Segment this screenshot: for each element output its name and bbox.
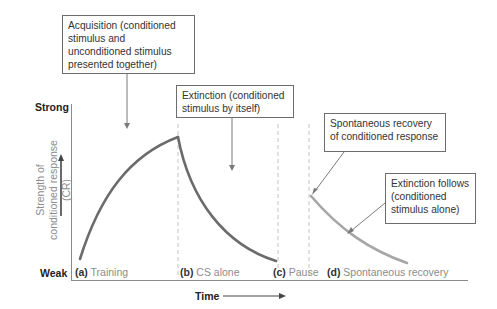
phase-key-c: (c) — [273, 266, 286, 278]
time-arrowhead-icon — [279, 293, 286, 299]
acquisition-curve — [80, 137, 178, 259]
extinction-follows-callout: Extinction follows (conditioned stimulus… — [385, 173, 476, 224]
phase-label-c: (c) Pause — [273, 266, 319, 278]
phase-text-c: Pause — [286, 266, 319, 278]
extinction-callout: Extinction (conditioned stimulus by itse… — [176, 85, 294, 118]
phase-text-b: CS alone — [193, 266, 239, 278]
extinction-curve — [178, 137, 276, 261]
acquisition-arrowhead-icon — [124, 123, 130, 129]
recovery-callout: Spontaneous recovery of conditioned resp… — [324, 113, 446, 152]
recovery-arrowhead-icon — [312, 188, 318, 195]
phase-key-a: (a) — [75, 266, 88, 278]
phase-label-a: (a) Training — [75, 266, 128, 278]
phase-label-b: (b) CS alone — [180, 266, 240, 278]
y-axis-label-line1: Strength of — [34, 130, 47, 250]
y-axis-label: Strength of conditioned response (CR) — [34, 130, 73, 250]
phase-key-d: (d) — [327, 266, 340, 278]
phase-label-d: (d) Spontaneous recovery — [327, 266, 448, 278]
recovery-pointer — [315, 152, 344, 191]
y-axis-label-line2: conditioned response (CR) — [47, 130, 73, 250]
acquisition-callout: Acquisition (conditioned stimulus and un… — [62, 15, 195, 74]
phase-text-d: Spontaneous recovery — [340, 266, 448, 278]
y-tick-strong: Strong — [35, 101, 69, 113]
extinction-arrowhead-icon — [229, 165, 235, 171]
phase-key-b: (b) — [180, 266, 193, 278]
x-axis-label: Time — [195, 290, 219, 302]
extinction-follows-pointer — [351, 203, 385, 231]
y-tick-weak: Weak — [40, 267, 67, 279]
phase-text-a: Training — [88, 266, 128, 278]
